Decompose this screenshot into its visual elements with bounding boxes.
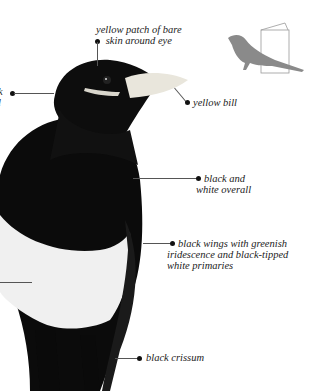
label-crissum: black crissum	[146, 352, 204, 363]
annotation-line	[97, 42, 98, 66]
annotation-line	[115, 358, 139, 359]
annotation-dot	[137, 356, 142, 361]
annotation-dot	[185, 100, 190, 105]
annotation-line	[143, 243, 170, 244]
label-wings: black wings with greenish iridescence an…	[167, 238, 288, 271]
annotation-dot	[196, 176, 201, 181]
label-head-left: k l	[0, 86, 3, 108]
label-line: yellow patch of bare	[96, 24, 182, 35]
bird-silhouette-book-icon	[0, 0, 311, 391]
bird-figure: yellow patch of bare skin around eye yel…	[0, 0, 311, 391]
label-line: black wings with greenish	[178, 238, 288, 249]
label-line: white primaries	[167, 260, 288, 271]
annotation-line	[0, 282, 32, 283]
label-line: skin around eye	[96, 35, 182, 46]
label-line: k	[0, 86, 3, 97]
label-bill: yellow bill	[193, 97, 237, 108]
label-eye-patch: yellow patch of bare skin around eye	[96, 24, 182, 46]
label-line: l	[0, 97, 3, 108]
label-line: iridescence and black-tipped	[167, 249, 288, 260]
label-overall: black and white overall	[204, 173, 251, 195]
annotation-line	[14, 93, 54, 94]
annotation-line	[133, 178, 197, 179]
label-line: white overall	[196, 184, 251, 195]
label-line: black and	[204, 173, 251, 184]
label-line: black crissum	[146, 352, 204, 363]
label-line: yellow bill	[193, 97, 237, 108]
